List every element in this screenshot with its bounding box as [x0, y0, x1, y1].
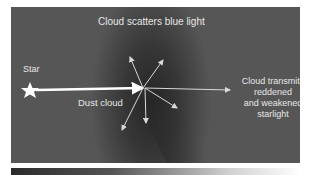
- transmit-line-4: starlight: [233, 109, 300, 120]
- diagram-title: Cloud scatters blue light: [98, 16, 205, 27]
- transmit-line-3: and weakened: [233, 98, 300, 109]
- scatter-arrows: [122, 57, 177, 130]
- transmit-line-1: Cloud transmits: [233, 76, 300, 87]
- dust-cloud-label: Dust cloud: [78, 97, 123, 108]
- bottom-divider-bar: [11, 168, 300, 175]
- incoming-ray-arrow: [36, 88, 142, 90]
- diagram-panel: Cloud scatters blue light Star Dust clou…: [11, 7, 300, 163]
- transmitted-ray-arrow: [145, 88, 230, 90]
- star-label: Star: [23, 64, 40, 74]
- transmit-line-2: reddened: [233, 87, 300, 98]
- transmitted-light-label: Cloud transmits reddened and weakened st…: [233, 76, 300, 120]
